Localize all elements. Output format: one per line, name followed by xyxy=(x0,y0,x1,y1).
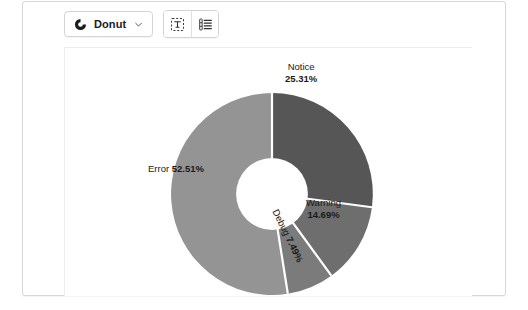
chevron-down-icon xyxy=(134,20,143,29)
toggle-legend-button[interactable] xyxy=(191,11,218,37)
text-label-box-icon xyxy=(170,17,185,32)
chart-type-select[interactable]: Donut xyxy=(64,11,153,37)
chart-option-button-group xyxy=(163,10,219,38)
toggle-data-labels-button[interactable] xyxy=(164,11,191,37)
donut-hole xyxy=(236,158,308,230)
chart-toolbar: Donut xyxy=(23,2,505,46)
donut-chart-icon xyxy=(74,18,87,31)
chart-card: Donut xyxy=(22,1,506,296)
donut-chart-svg xyxy=(65,48,472,296)
donut-chart[interactable]: Notice 25.31% Error 52.51% Warning 14.69… xyxy=(65,48,472,296)
chart-panel: Notice 25.31% Error 52.51% Warning 14.69… xyxy=(64,47,472,296)
legend-list-icon xyxy=(198,17,213,32)
chart-type-label: Donut xyxy=(94,18,126,30)
